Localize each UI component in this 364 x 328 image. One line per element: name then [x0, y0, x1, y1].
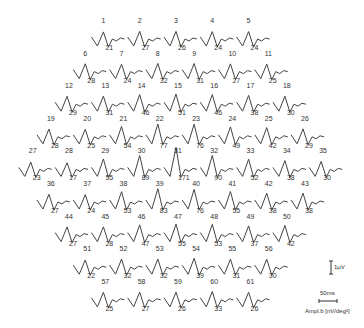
amplitude-value-24: 49: [232, 142, 240, 149]
hexagon-number-30: 30: [138, 147, 146, 154]
amplitude-value-22: 77: [160, 142, 168, 149]
hexagon-number-2: 2: [138, 17, 142, 24]
amplitude-value-56: 30: [269, 272, 277, 279]
hexagon-number-49: 49: [247, 213, 255, 220]
amplitude-value-38: 53: [124, 207, 132, 214]
amplitude-value-16: 46: [214, 109, 222, 116]
amplitude-value-7: 24: [124, 77, 132, 84]
hexagon-number-18: 18: [283, 82, 291, 89]
hexagon-number-50: 50: [283, 213, 291, 220]
amplitude-value-52: 32: [124, 272, 132, 279]
amplitude-value-9: 31: [196, 77, 204, 84]
amplitude-value-39: 83: [160, 207, 168, 214]
hexagon-number-14: 14: [138, 82, 146, 89]
amplitude-value-4: 24: [214, 44, 222, 51]
hexagon-number-46: 46: [138, 213, 146, 220]
amplitude-value-41: 55: [232, 207, 240, 214]
amplitude-value-51: 22: [87, 272, 95, 279]
hexagon-number-8: 8: [156, 50, 160, 57]
hexagon-number-37: 37: [83, 180, 91, 187]
amplitude-value-58: 27: [142, 305, 150, 312]
amplitude-value-44: 27: [69, 240, 77, 247]
amplitude-value-40: 76: [196, 207, 204, 214]
hexagon-number-58: 58: [138, 278, 146, 285]
amplitude-value-2: 27: [142, 44, 150, 51]
hexagon-number-59: 59: [174, 278, 182, 285]
hexagon-number-24: 24: [228, 115, 236, 122]
amplitude-value-45: 28: [105, 240, 113, 247]
amplitude-value-15: 51: [178, 109, 186, 116]
hexagon-number-15: 15: [174, 82, 182, 89]
amplitude-value-46: 47: [142, 240, 150, 247]
hexagon-number-45: 45: [101, 213, 109, 220]
hexagon-number-48: 48: [210, 213, 218, 220]
amplitude-value-10: 27: [232, 77, 240, 84]
amplitude-value-5: 24: [251, 44, 259, 51]
amplitude-value-34: 38: [287, 174, 295, 181]
amplitude-value-18: 30: [287, 109, 295, 116]
hexagon-number-11: 11: [265, 50, 272, 57]
hexagon-number-19: 19: [47, 115, 55, 122]
hexagon-number-12: 12: [65, 82, 73, 89]
hexagon-number-29: 29: [101, 147, 109, 154]
hexagon-number-6: 6: [83, 50, 87, 57]
amplitude-value-19: 28: [51, 142, 59, 149]
amplitude-value-33: 52: [251, 174, 259, 181]
amplitude-value-14: 46: [142, 109, 150, 116]
amplitude-value-8: 32: [160, 77, 168, 84]
amplitude-value-55: 31: [232, 272, 240, 279]
amplitude-value-13: 31: [105, 109, 113, 116]
units-label: Ampl.b [nV/deg²]: [305, 308, 350, 314]
hexagon-number-56: 56: [265, 245, 273, 252]
hexagon-number-47: 47: [174, 213, 182, 220]
amplitude-value-12: 29: [69, 109, 77, 116]
hexagon-number-13: 13: [101, 82, 109, 89]
amplitude-value-28: 17: [69, 174, 77, 181]
amplitude-value-42: 38: [269, 207, 277, 214]
amplitude-value-27: 23: [33, 174, 41, 181]
amplitude-value-3: 26: [178, 44, 186, 51]
amplitude-value-29: 55: [105, 174, 113, 181]
hexagon-number-5: 5: [247, 17, 251, 24]
hexagon-number-38: 38: [120, 180, 128, 187]
amplitude-value-32: 90: [214, 174, 222, 181]
amplitude-value-1: 21: [105, 44, 113, 51]
amplitude-value-21: 54: [124, 142, 132, 149]
amplitude-value-61: 26: [251, 305, 259, 312]
amplitude-value-23: 76: [196, 142, 204, 149]
hexagon-number-36: 36: [47, 180, 55, 187]
hexagon-number-44: 44: [65, 213, 73, 220]
amplitude-value-50: 42: [287, 240, 295, 247]
hexagon-number-20: 20: [83, 115, 91, 122]
trace-grid: 1212273264245246287248329311027112512291…: [19, 17, 342, 312]
hexagon-number-22: 22: [156, 115, 164, 122]
hexagon-number-55: 55: [228, 245, 236, 252]
amplitude-value-30: 89: [142, 174, 150, 181]
mferg-trace-array: 1212273264245246287248329311027112512291…: [0, 0, 364, 328]
amplitude-value-60: 33: [214, 305, 222, 312]
hexagon-number-16: 16: [210, 82, 218, 89]
hexagon-number-1: 1: [101, 17, 105, 24]
hexagon-number-39: 39: [156, 180, 164, 187]
hexagon-number-7: 7: [120, 50, 124, 57]
scale-bars: 1µV 50ms Ampl.b [nV/deg²]: [305, 261, 350, 314]
hexagon-number-27: 27: [29, 147, 37, 154]
amplitude-value-54: 39: [196, 272, 204, 279]
hexagon-number-28: 28: [65, 147, 73, 154]
amplitude-value-57: 25: [105, 305, 113, 312]
amplitude-value-26: 29: [305, 142, 313, 149]
time-scale-label: 50ms: [320, 290, 335, 296]
amplitude-value-36: 27: [51, 207, 59, 214]
amplitude-value-6: 28: [87, 77, 95, 84]
hexagon-number-41: 41: [228, 180, 236, 187]
hexagon-number-34: 34: [283, 147, 291, 154]
amplitude-value-20: 25: [87, 142, 95, 149]
amplitude-value-49: 37: [251, 240, 259, 247]
amplitude-value-37: 24: [87, 207, 95, 214]
hexagon-number-61: 61: [247, 278, 255, 285]
hexagon-number-9: 9: [192, 50, 196, 57]
hexagon-number-3: 3: [174, 17, 178, 24]
hexagon-number-32: 32: [210, 147, 218, 154]
amplitude-value-48: 53: [214, 240, 222, 247]
hexagon-number-51: 51: [83, 245, 91, 252]
